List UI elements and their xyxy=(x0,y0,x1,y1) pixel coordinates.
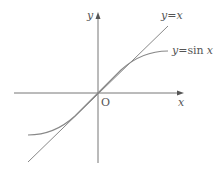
sine-label: y=sinx xyxy=(171,44,214,57)
line-label-rhs: x xyxy=(176,9,183,22)
line-label-eq: = xyxy=(167,9,176,22)
sine-label-eq: = xyxy=(178,44,187,57)
graph-svg: y x O y=x y=sinx xyxy=(0,0,224,173)
sine-label-fn: sin xyxy=(187,44,203,57)
x-axis-label: x xyxy=(178,96,185,109)
graph-canvas: y x O y=x y=sinx xyxy=(0,0,224,173)
sine-label-arg: x xyxy=(207,44,214,57)
x-axis-arrow-icon xyxy=(177,91,184,96)
line-label: y=x xyxy=(160,9,183,22)
origin-label: O xyxy=(101,96,110,109)
y-axis-arrow-icon xyxy=(96,12,101,19)
y-axis-label: y xyxy=(86,9,94,22)
